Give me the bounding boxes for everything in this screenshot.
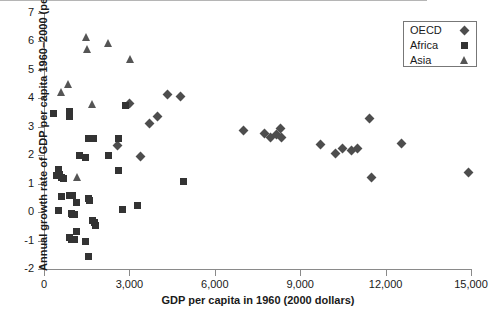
square-marker-icon — [115, 135, 122, 142]
square-marker-icon — [90, 135, 97, 142]
diamond-marker-icon — [366, 172, 376, 182]
y-tick-label: 1 — [8, 178, 34, 189]
x-tick-label: 9,000 — [270, 279, 330, 290]
square-marker-icon — [50, 110, 57, 117]
y-tick-label: -2 — [8, 263, 34, 274]
x-tick-label: 6,000 — [185, 279, 245, 290]
legend-label: OECD — [410, 23, 442, 37]
triangle-marker-icon — [83, 45, 91, 53]
square-marker-icon — [66, 113, 73, 120]
x-tick-label: 15,000 — [441, 279, 493, 290]
square-marker-icon — [60, 175, 67, 182]
square-marker-icon — [73, 199, 80, 206]
y-tick-label: 3 — [8, 121, 34, 132]
diamond-marker-icon — [463, 168, 473, 178]
chart-legend: OECDAfricaAsia — [403, 21, 477, 67]
square-marker-icon — [134, 202, 141, 209]
diamond-marker-icon — [396, 139, 406, 149]
square-marker-icon — [55, 207, 62, 214]
zero-reference-line — [0, 0, 427, 1]
square-marker-icon — [85, 253, 92, 260]
square-marker-icon — [53, 172, 60, 179]
x-tick — [300, 269, 301, 276]
x-tick-label: 0 — [14, 279, 74, 290]
diamond-marker-icon — [153, 112, 163, 122]
diamond-marker-icon — [315, 140, 325, 150]
diamond-marker-icon — [112, 141, 122, 151]
square-marker-icon — [119, 206, 126, 213]
square-marker-icon — [105, 152, 112, 159]
square-marker-icon — [86, 197, 93, 204]
x-tick — [129, 269, 130, 276]
diamond-marker-icon — [238, 125, 248, 135]
x-tick — [471, 269, 472, 276]
triangle-marker-icon — [64, 80, 72, 88]
x-axis-title: GDP per capita in 1960 (2000 dollars) — [44, 294, 472, 306]
square-marker-icon — [122, 102, 129, 109]
square-glyph — [461, 42, 468, 49]
square-marker-icon — [71, 211, 78, 218]
legend-item-asia[interactable]: Asia — [404, 53, 476, 67]
square-marker-icon — [92, 222, 99, 229]
square-marker-icon — [82, 238, 89, 245]
square-marker-icon — [82, 154, 89, 161]
diamond-marker-icon — [175, 92, 185, 102]
diamond-marker-icon — [144, 119, 154, 129]
x-tick — [386, 269, 387, 276]
y-tick-label: 4 — [8, 92, 34, 103]
y-tick-label: 5 — [8, 64, 34, 75]
y-tick-label: 2 — [8, 149, 34, 160]
y-axis-title: Annual growth rate of GDP per capita 196… — [37, 1, 49, 271]
diamond-glyph — [459, 25, 469, 35]
triangle-marker-icon — [73, 173, 81, 181]
y-tick-label: 6 — [8, 35, 34, 46]
triangle-marker-icon — [82, 33, 90, 41]
diamond-marker-icon — [365, 113, 375, 123]
diamond-marker-icon — [136, 152, 146, 162]
square-marker-icon — [71, 236, 78, 243]
square-marker-icon — [58, 193, 65, 200]
y-tick-label: 7 — [8, 7, 34, 18]
triangle-marker-icon — [57, 88, 65, 96]
triangle-marker-icon — [126, 55, 134, 63]
x-tick-label: 3,000 — [99, 279, 159, 290]
square-marker-icon — [69, 192, 76, 199]
legend-item-africa[interactable]: Africa — [404, 38, 476, 52]
square-marker-icon — [180, 178, 187, 185]
square-marker-icon — [73, 228, 80, 235]
triangle-marker-icon — [88, 100, 96, 108]
x-axis-line — [44, 269, 472, 270]
square-marker-icon — [115, 167, 122, 174]
x-tick-label: 12,000 — [356, 279, 416, 290]
triangle-marker-icon — [104, 39, 112, 47]
diamond-marker-icon — [162, 90, 172, 100]
y-tick-label: -1 — [8, 235, 34, 246]
legend-label: Africa — [410, 38, 438, 52]
legend-item-oecd[interactable]: OECD — [404, 23, 476, 37]
y-tick-label: 0 — [8, 206, 34, 217]
x-tick — [215, 269, 216, 276]
legend-label: Asia — [410, 53, 431, 67]
triangle-glyph — [460, 56, 468, 64]
